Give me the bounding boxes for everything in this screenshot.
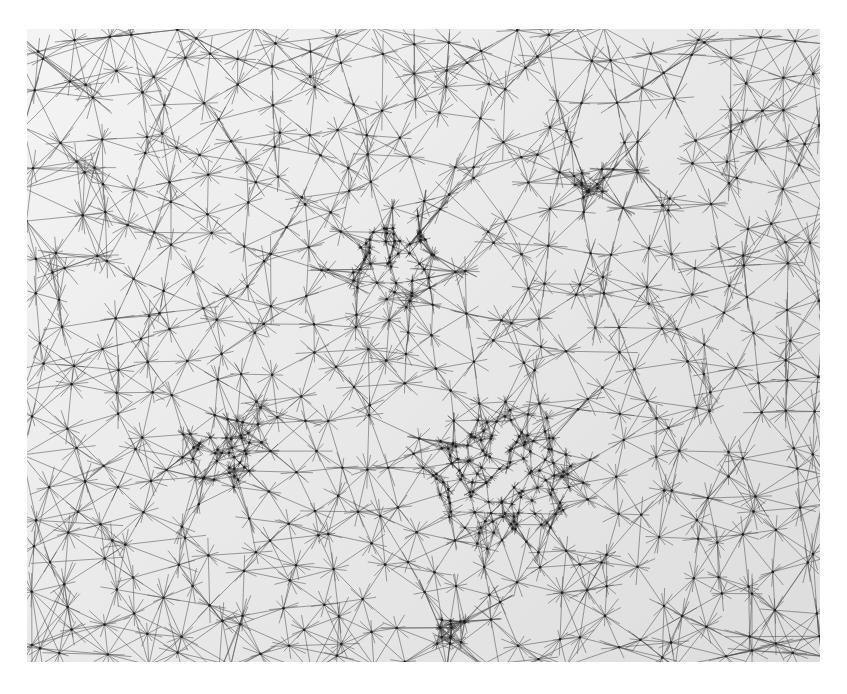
- node-dot: [379, 515, 382, 518]
- node-dot: [558, 507, 561, 510]
- node-dot: [323, 603, 326, 606]
- node-dot: [743, 264, 746, 267]
- node-dot: [549, 126, 552, 129]
- node-dot: [392, 233, 395, 236]
- node-dot: [271, 65, 274, 68]
- node-dot: [460, 641, 463, 644]
- node-dot: [218, 118, 221, 121]
- node-dot: [573, 175, 576, 178]
- node-dot: [327, 269, 330, 272]
- node-dot: [126, 224, 129, 227]
- node-dot: [42, 58, 45, 61]
- node-dot: [73, 39, 76, 42]
- node-dot: [470, 436, 473, 439]
- node-dot: [405, 306, 408, 309]
- node-dot: [786, 309, 789, 312]
- node-dot: [523, 362, 526, 365]
- node-dot: [703, 373, 706, 376]
- node-dot: [477, 419, 480, 422]
- node-dot: [203, 476, 206, 479]
- node-dot: [465, 312, 468, 315]
- node-dot: [775, 529, 778, 532]
- node-dot: [226, 295, 229, 298]
- node-dot: [474, 436, 477, 439]
- node-dot: [170, 200, 173, 203]
- node-dot: [504, 88, 507, 91]
- node-dot: [509, 409, 512, 412]
- node-dot: [255, 551, 258, 554]
- node-dot: [646, 400, 649, 403]
- node-dot: [239, 623, 242, 626]
- node-dot: [240, 434, 243, 437]
- node-dot: [262, 323, 265, 326]
- node-dot: [339, 230, 342, 233]
- node-dot: [428, 277, 431, 280]
- node-dot: [480, 439, 483, 442]
- node-dot: [269, 539, 272, 542]
- node-dot: [347, 167, 350, 170]
- node-dot: [618, 326, 621, 329]
- node-dot: [116, 588, 119, 591]
- node-dot: [271, 374, 274, 377]
- node-dot: [335, 35, 338, 38]
- node-dot: [439, 208, 442, 211]
- node-dot: [459, 478, 462, 481]
- node-dot: [96, 255, 99, 258]
- node-dot: [818, 299, 821, 302]
- node-dot: [782, 77, 785, 80]
- node-dot: [609, 59, 612, 62]
- node-dot: [75, 447, 78, 450]
- node-dot: [775, 642, 778, 645]
- node-dot: [813, 410, 816, 413]
- node-dot: [479, 117, 482, 120]
- node-dot: [480, 466, 483, 469]
- node-dot: [747, 585, 750, 588]
- node-dot: [355, 314, 358, 317]
- node-dot: [340, 643, 343, 646]
- node-dot: [791, 652, 794, 655]
- node-dot: [537, 551, 540, 554]
- node-dot: [287, 522, 290, 525]
- node-dot: [604, 615, 607, 618]
- node-dot: [742, 457, 745, 460]
- node-dot: [48, 486, 51, 489]
- node-dot: [243, 245, 246, 248]
- node-dot: [288, 645, 291, 648]
- node-dot: [449, 502, 452, 505]
- node-dot: [180, 636, 183, 639]
- node-dot: [329, 211, 332, 214]
- node-dot: [454, 166, 457, 169]
- node-dot: [314, 510, 317, 513]
- node-dot: [394, 240, 397, 243]
- node-dot: [809, 241, 812, 244]
- node-dot: [385, 298, 388, 301]
- node-dot: [102, 465, 105, 468]
- node-dot: [413, 43, 416, 46]
- node-dot: [520, 431, 523, 434]
- node-dot: [454, 271, 457, 274]
- node-dot: [670, 253, 673, 256]
- node-dot: [240, 437, 243, 440]
- node-dot: [667, 209, 670, 212]
- node-dot: [207, 554, 210, 557]
- node-dot: [245, 161, 248, 164]
- node-dot: [490, 512, 493, 515]
- node-dot: [774, 609, 777, 612]
- node-dot: [228, 467, 231, 470]
- node-dot: [353, 386, 356, 389]
- node-dot: [301, 196, 304, 199]
- node-dot: [663, 489, 666, 492]
- node-dot: [518, 492, 521, 495]
- node-dot: [502, 141, 505, 144]
- node-dot: [359, 268, 362, 271]
- network-line-drawing: [27, 29, 820, 662]
- node-dot: [523, 444, 526, 447]
- node-dot: [517, 512, 520, 515]
- node-dot: [622, 439, 625, 442]
- node-dot: [268, 490, 271, 493]
- node-dot: [63, 583, 66, 586]
- node-dot: [366, 134, 369, 137]
- node-dot: [580, 184, 583, 187]
- node-dot: [390, 265, 393, 268]
- node-dot: [484, 520, 487, 523]
